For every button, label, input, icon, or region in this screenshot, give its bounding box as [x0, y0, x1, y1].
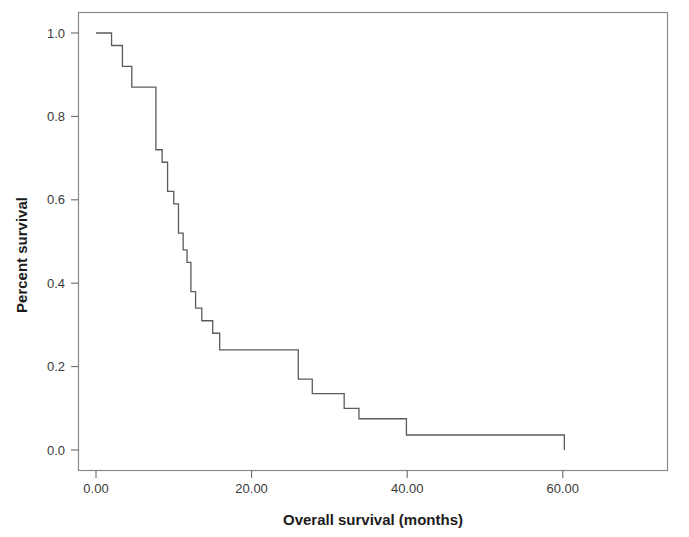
y-tick-label-1: 0.2 — [47, 359, 65, 374]
y-tick-label-4: 0.8 — [47, 109, 65, 124]
y-tick-label-3: 0.6 — [47, 192, 65, 207]
x-axis-title: Overall survival (months) — [283, 511, 463, 528]
chart-background — [0, 0, 689, 537]
x-tick-label-3: 60.00 — [547, 481, 580, 496]
y-axis-title: Percent survival — [13, 197, 30, 313]
x-tick-label-1: 20.00 — [235, 481, 268, 496]
y-tick-label-5: 1.0 — [47, 26, 65, 41]
chart-canvas: 1.0 0.8 0.6 0.4 0.2 0.0 0.00 20.00 40.00… — [0, 0, 689, 537]
survival-chart-figure: 1.0 0.8 0.6 0.4 0.2 0.0 0.00 20.00 40.00… — [0, 0, 689, 537]
y-tick-label-0: 0.0 — [47, 443, 65, 458]
y-tick-label-2: 0.4 — [47, 276, 65, 291]
x-tick-label-0: 0.00 — [83, 481, 108, 496]
x-tick-label-2: 40.00 — [391, 481, 424, 496]
